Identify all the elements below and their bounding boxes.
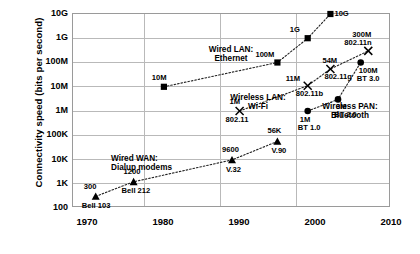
x-tick-1990: 1990 [209,216,269,227]
x-tick-2000: 2000 [285,216,345,227]
point-value-label: 10G [334,10,348,18]
point-value-label: 56K [267,127,281,135]
data-point-marker [357,59,364,66]
data-point-marker [364,47,372,55]
x-tick-1970: 1970 [57,216,117,227]
y-tick-100K: 100K [28,129,68,139]
data-point-marker [274,59,280,65]
point-standard-label: Bell 212 [122,187,151,195]
point-standard-label: 802.11n [344,39,371,47]
y-tick-10G: 10G [28,8,68,18]
point-value-label: 10M [152,74,167,82]
series-label-dialup-line2: Dialup modems [111,163,172,172]
data-point-marker [228,156,236,163]
series-label-ethernet-line2: Ethernet [214,54,247,63]
point-standard-label: V.90 [271,147,286,155]
series-label-bluetooth-line2: Bluetooth [331,111,369,120]
y-tick-1G: 1G [28,32,68,42]
point-standard-label: 802.11 [226,116,249,124]
series-label-bluetooth: Wireless PAN: Bluetooth [305,102,395,121]
y-tick-100M: 100M [28,56,68,66]
x-tick-1980: 1980 [133,216,193,227]
series-label-ethernet: Wired LAN: Ethernet [191,45,271,64]
y-tick-10K: 10K [28,154,68,164]
y-tick-1M: 1M [28,105,68,115]
data-point-marker [161,84,167,90]
connectivity-speed-chart: Connectivity speed (bits per second) 10G… [0,0,420,254]
series-label-ethernet-line1: Wired LAN: [209,45,254,54]
point-standard-label: BT 3.0 [357,75,380,83]
x-tick-2010: 2010 [361,216,420,227]
data-point-marker [92,192,100,199]
point-value-label: 1G [290,26,300,34]
point-standard-label: 802.11g [324,73,351,81]
point-value-label: 9600 [222,146,239,154]
point-value-label: 11M [286,75,300,83]
data-point-marker [327,11,333,17]
series-label-dialup-line1: Wired WAN: [111,154,158,163]
series-label-wifi-line1: Wireless LAN: [230,93,285,102]
data-point-marker [305,35,311,41]
data-point-marker [273,137,281,144]
point-standard-label: Bell 103 [82,202,111,210]
y-tick-1K: 1K [28,178,68,188]
point-value-label: 300 [84,183,97,191]
series-label-wifi: Wireless LAN: Wi-Fi [216,93,300,112]
series-label-wifi-line2: Wi-Fi [248,102,268,111]
series-label-dialup: Wired WAN: Dialup modems [111,154,207,173]
point-value-label: 54M [322,57,337,65]
y-tick-10M: 10M [28,81,68,91]
point-standard-label: BT 1.0 [298,124,321,132]
y-tick-100: 100 [28,202,68,212]
plot-area: 10M100M1G10G1M802.1111M802.11b54M802.11g… [72,13,390,207]
point-standard-label: V.32 [226,166,241,174]
series-label-bluetooth-line1: Wireless PAN: [322,102,377,111]
